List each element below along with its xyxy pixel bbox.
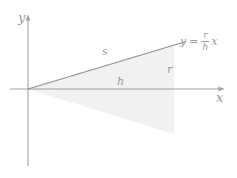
y-axis-label: y (18, 11, 25, 24)
equation-variable: x (211, 36, 217, 47)
radius-label: r (167, 64, 172, 75)
equation-numerator: r (202, 31, 208, 41)
y-axis (26, 15, 31, 167)
x-axis-label: x (216, 91, 223, 104)
cone-cross-section-figure: y x s h r y = r h x (0, 0, 237, 178)
equation-equals-sign: = (188, 36, 199, 47)
figure-canvas (0, 0, 237, 178)
y-axis-arrowhead (26, 15, 31, 21)
equation-lhs: y (180, 36, 186, 47)
equation-denominator: h (201, 42, 209, 52)
height-label: h (117, 76, 124, 87)
line-equation-label: y = r h x (180, 31, 217, 52)
slant-height-label: s (102, 46, 108, 57)
equation-fraction: r h (201, 31, 209, 52)
